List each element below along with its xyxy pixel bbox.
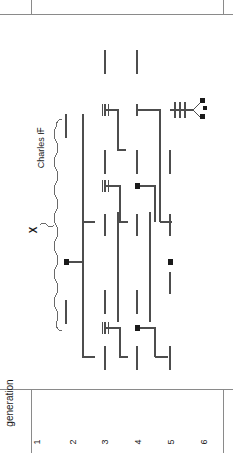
- cross-connector: [40, 223, 54, 227]
- affected-square: [200, 98, 205, 103]
- affected-square: [200, 114, 205, 119]
- affected-square: [64, 259, 69, 265]
- axis-right-rule: [223, 389, 224, 453]
- affected-square: [135, 183, 140, 189]
- affected-square: [203, 106, 207, 110]
- descent-line: [83, 347, 95, 357]
- fan-branch: [193, 110, 201, 118]
- descent-line: [140, 186, 155, 222]
- generation-tick-1: 1: [31, 435, 43, 449]
- frame-right-tick: [223, 0, 224, 15]
- mating-symbol: =: [34, 123, 46, 137]
- wavy-cap-bottom: [56, 323, 62, 331]
- frame-horizontal-rule: [0, 14, 233, 15]
- pedigree-figure: Charles II = X generation 1 2 3 4 5 6: [0, 0, 233, 453]
- generation-tick-3: 3: [99, 435, 111, 449]
- affected-square: [135, 325, 140, 331]
- wavy-cap-top: [56, 119, 62, 127]
- pedigree-graph: [0, 22, 233, 389]
- descent-line: [137, 110, 160, 222]
- descent-line: [140, 328, 155, 357]
- generation-tick-4: 4: [132, 435, 144, 449]
- affected-square: [168, 259, 173, 265]
- axis-top-rule: [0, 389, 233, 390]
- pedigree-canvas: [0, 22, 233, 389]
- frame-left-tick: [31, 0, 32, 15]
- cross-marker: X: [28, 223, 40, 237]
- axis-title-generation: generation: [3, 371, 17, 435]
- generation-tick-2: 2: [67, 435, 79, 449]
- generation-tick-6: 6: [198, 435, 210, 449]
- fan-branch: [193, 102, 201, 110]
- inbreeding-wavy-line: [54, 127, 58, 323]
- generation-tick-5: 5: [165, 435, 177, 449]
- figure-top-frame: [0, 0, 233, 22]
